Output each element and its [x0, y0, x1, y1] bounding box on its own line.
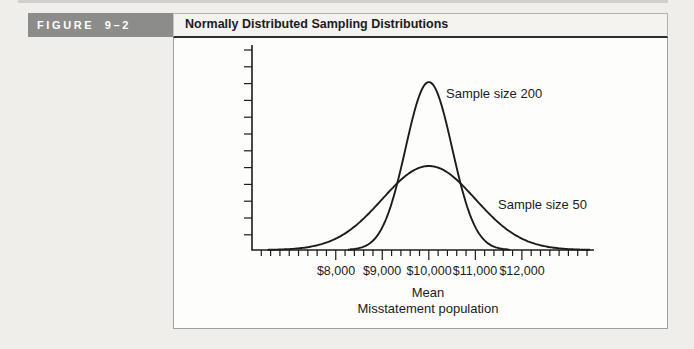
- figure-title: Normally Distributed Sampling Distributi…: [173, 13, 668, 38]
- scan-artifact: [18, 0, 668, 3]
- figure-number-label: FIGURE 9–2: [28, 13, 173, 37]
- x-tick-label-12000: $12,000: [482, 264, 562, 278]
- annotation-sample-size-50: Sample size 50: [498, 197, 587, 212]
- x-axis-title-mean: Mean: [368, 285, 488, 300]
- x-axis-title-population: Misstatement population: [318, 301, 538, 316]
- textbook-figure-page: { "figure": { "label": "FIGURE 9–2" }, "…: [0, 0, 694, 349]
- annotation-sample-size-200: Sample size 200: [446, 86, 542, 101]
